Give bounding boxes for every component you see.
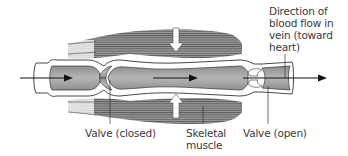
upper-skeletal-muscle (68, 29, 242, 60)
label-valve-closed: Valve (closed) (85, 127, 156, 139)
label-valve-open: Valve (open) (243, 127, 307, 139)
label-line: muscle (186, 139, 226, 151)
vein-muscle-pump-diagram: Direction of blood flow in vein (toward … (0, 0, 348, 156)
label-line: vein (toward (269, 29, 333, 41)
label-line: blood flow in (269, 17, 333, 29)
label-line: heart) (269, 41, 333, 53)
lower-skeletal-muscle (68, 98, 242, 124)
label-line: Skeletal (186, 127, 226, 139)
label-skeletal-muscle: Skeletal muscle (186, 127, 226, 151)
label-blood-flow-direction: Direction of blood flow in vein (toward … (269, 5, 333, 53)
label-line: Direction of (269, 5, 333, 17)
